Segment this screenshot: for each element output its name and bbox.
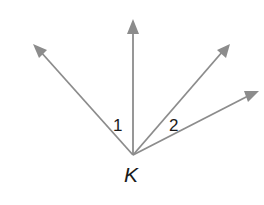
arrowhead-lower-right-icon bbox=[244, 91, 259, 102]
vertex-k-label: K bbox=[124, 163, 139, 186]
angle-1-label: 1 bbox=[113, 116, 122, 135]
ray-upper-right bbox=[133, 51, 223, 155]
ray-lower-right bbox=[133, 95, 250, 155]
ray-left bbox=[40, 51, 133, 155]
arrowhead-vertical-icon bbox=[127, 19, 139, 34]
angle-2-label: 2 bbox=[169, 116, 178, 135]
angle-diagram: 1 2 K bbox=[0, 0, 264, 205]
